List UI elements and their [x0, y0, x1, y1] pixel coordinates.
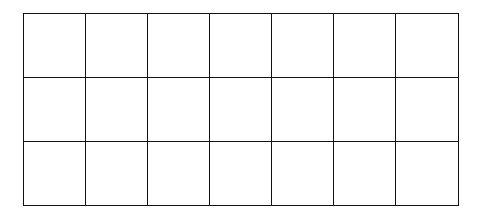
grid-cell [271, 141, 335, 206]
grid-cell [333, 77, 397, 142]
grid-cell [23, 141, 87, 206]
grid-cell [85, 141, 149, 206]
grid-cell [147, 77, 211, 142]
grid-cell [85, 13, 149, 78]
grid-cell [395, 13, 459, 78]
grid-cell [209, 77, 273, 142]
grid-cell [395, 141, 459, 206]
grid-cell [147, 13, 211, 78]
grid-cell [23, 13, 87, 78]
grid-cell [209, 13, 273, 78]
grid-cell [23, 77, 87, 142]
grid-cell [271, 77, 335, 142]
grid-cell [209, 141, 273, 206]
empty-grid [23, 13, 459, 206]
grid-cell [147, 141, 211, 206]
grid-cell [271, 13, 335, 78]
grid-cell [85, 77, 149, 142]
grid-cell [333, 141, 397, 206]
grid-cell [395, 77, 459, 142]
grid-cell [333, 13, 397, 78]
